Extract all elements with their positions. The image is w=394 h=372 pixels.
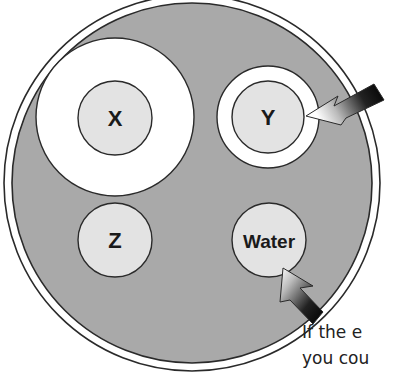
label-y: Y: [261, 105, 276, 130]
label-x: X: [108, 106, 123, 131]
caption-line-1: If the e: [302, 322, 394, 342]
organelle-x: X: [36, 38, 194, 196]
organelle-y: Y: [217, 66, 319, 168]
organelle-water: Water: [232, 203, 306, 277]
label-z: Z: [108, 228, 121, 253]
cell-diagram: X Y Z Water: [0, 0, 394, 372]
caption-line-2: you cou: [302, 348, 394, 368]
organelle-z: Z: [78, 203, 152, 277]
label-water: Water: [243, 231, 296, 252]
